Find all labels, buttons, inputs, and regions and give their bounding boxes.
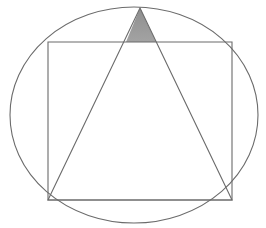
geometry-figure-svg [0, 0, 266, 228]
geometry-figure-canvas [0, 0, 266, 228]
